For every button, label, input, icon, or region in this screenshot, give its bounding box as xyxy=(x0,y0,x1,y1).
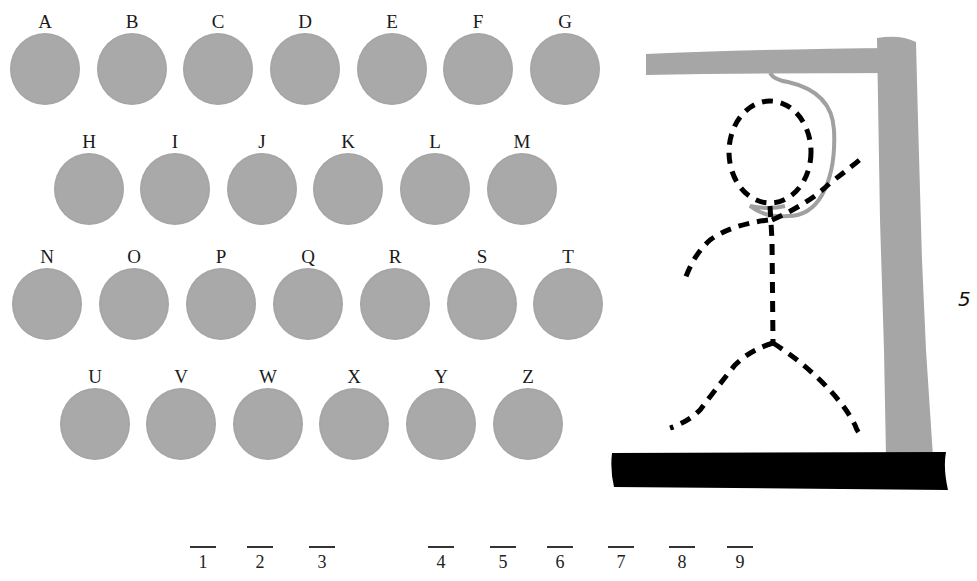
letter-label: S xyxy=(447,246,517,268)
letter-disc[interactable] xyxy=(400,153,470,225)
letter-label: Q xyxy=(273,246,343,268)
slot-index: 4 xyxy=(437,552,446,572)
letter-label: F xyxy=(443,11,513,33)
letter-disc[interactable] xyxy=(10,33,80,105)
letter-label: N xyxy=(12,246,82,268)
letter-label: M xyxy=(487,131,557,153)
slot-underline xyxy=(247,546,273,548)
letter-button-s[interactable]: S xyxy=(447,246,517,346)
letter-disc[interactable] xyxy=(493,388,563,460)
word-slot: 3 xyxy=(308,546,336,573)
letter-disc[interactable] xyxy=(273,268,343,340)
letter-label: T xyxy=(533,246,603,268)
letter-disc[interactable] xyxy=(146,388,216,460)
letter-label: K xyxy=(313,131,383,153)
letter-button-r[interactable]: R xyxy=(360,246,430,346)
letter-button-u[interactable]: U xyxy=(60,366,130,466)
letter-label: B xyxy=(97,11,167,33)
slot-underline xyxy=(547,546,573,548)
letter-disc[interactable] xyxy=(406,388,476,460)
letter-disc[interactable] xyxy=(313,153,383,225)
letter-disc[interactable] xyxy=(60,388,130,460)
word-slot: 7 xyxy=(607,546,635,573)
gallows-beam xyxy=(646,48,900,75)
letter-button-v[interactable]: V xyxy=(146,366,216,466)
slot-index: 1 xyxy=(199,552,208,572)
letter-button-l[interactable]: L xyxy=(400,131,470,231)
letter-button-k[interactable]: K xyxy=(313,131,383,231)
slot-index: 5 xyxy=(499,552,508,572)
hangman-drawing xyxy=(600,20,977,500)
word-slot: 8 xyxy=(668,546,696,573)
letter-label: E xyxy=(357,11,427,33)
figure-left-arm xyxy=(684,220,768,282)
letter-button-j[interactable]: J xyxy=(227,131,297,231)
letter-disc[interactable] xyxy=(443,33,513,105)
slot-underline xyxy=(428,546,454,548)
letter-label: H xyxy=(54,131,124,153)
letter-disc[interactable] xyxy=(140,153,210,225)
letter-disc[interactable] xyxy=(54,153,124,225)
figure-right-leg xyxy=(773,343,862,435)
letter-disc[interactable] xyxy=(357,33,427,105)
letter-disc[interactable] xyxy=(530,33,600,105)
letter-label: U xyxy=(60,366,130,388)
word-slot: 4 xyxy=(427,546,455,573)
letter-disc[interactable] xyxy=(447,268,517,340)
letter-disc[interactable] xyxy=(183,33,253,105)
letter-button-q[interactable]: Q xyxy=(273,246,343,346)
letter-button-i[interactable]: I xyxy=(140,131,210,231)
word-slot: 1 xyxy=(189,546,217,573)
figure-right-arm xyxy=(772,157,863,220)
letter-disc[interactable] xyxy=(99,268,169,340)
slot-underline xyxy=(727,546,753,548)
letter-label: I xyxy=(140,131,210,153)
letter-disc[interactable] xyxy=(227,153,297,225)
letter-button-g[interactable]: G xyxy=(530,11,600,111)
letter-button-z[interactable]: Z xyxy=(493,366,563,466)
letter-disc[interactable] xyxy=(12,268,82,340)
letter-button-n[interactable]: N xyxy=(12,246,82,346)
slot-underline xyxy=(490,546,516,548)
letter-disc[interactable] xyxy=(319,388,389,460)
letter-button-a[interactable]: A xyxy=(10,11,80,111)
word-slot: 6 xyxy=(546,546,574,573)
slot-index: 7 xyxy=(617,552,626,572)
letter-button-t[interactable]: T xyxy=(533,246,603,346)
letter-label: C xyxy=(183,11,253,33)
letter-button-b[interactable]: B xyxy=(97,11,167,111)
letter-disc[interactable] xyxy=(233,388,303,460)
letter-button-x[interactable]: X xyxy=(319,366,389,466)
letter-disc[interactable] xyxy=(186,268,256,340)
word-slot: 9 xyxy=(726,546,754,573)
word-slot: 5 xyxy=(489,546,517,573)
slot-index: 3 xyxy=(318,552,327,572)
letter-button-h[interactable]: H xyxy=(54,131,124,231)
figure-body xyxy=(770,206,773,343)
letter-button-f[interactable]: F xyxy=(443,11,513,111)
figure-left-leg xyxy=(670,343,773,428)
letter-button-c[interactable]: C xyxy=(183,11,253,111)
slot-underline xyxy=(669,546,695,548)
letter-disc[interactable] xyxy=(533,268,603,340)
letter-disc[interactable] xyxy=(487,153,557,225)
letter-label: V xyxy=(146,366,216,388)
letter-label: J xyxy=(227,131,297,153)
letter-disc[interactable] xyxy=(360,268,430,340)
wrong-guess-counter: 5 xyxy=(958,287,971,311)
letter-button-y[interactable]: Y xyxy=(406,366,476,466)
letter-disc[interactable] xyxy=(97,33,167,105)
letter-button-e[interactable]: E xyxy=(357,11,427,111)
letter-button-o[interactable]: O xyxy=(99,246,169,346)
letter-disc[interactable] xyxy=(270,33,340,105)
letter-button-p[interactable]: P xyxy=(186,246,256,346)
letter-button-d[interactable]: D xyxy=(270,11,340,111)
letter-label: Y xyxy=(406,366,476,388)
letter-button-w[interactable]: W xyxy=(233,366,303,466)
letter-button-m[interactable]: M xyxy=(487,131,557,231)
letter-label: Z xyxy=(493,366,563,388)
letter-label: D xyxy=(270,11,340,33)
gallows-base xyxy=(611,452,948,490)
gallows-post xyxy=(877,37,933,457)
word-slot: 2 xyxy=(246,546,274,573)
